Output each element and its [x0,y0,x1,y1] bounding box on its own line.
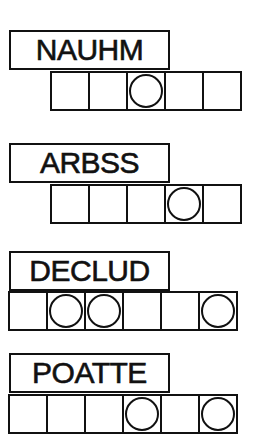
letter-input[interactable] [128,73,164,109]
scrambled-word-box: POATTE [9,353,170,393]
answer-letter-box[interactable] [50,71,90,111]
answer-letter-box[interactable] [160,394,200,434]
letter-input[interactable] [162,396,198,432]
scrambled-word: DECLUD [29,256,149,286]
letter-input[interactable] [128,186,164,222]
letter-input[interactable] [90,186,126,222]
answer-grid [50,184,240,224]
letter-input[interactable] [48,293,84,329]
answer-letter-box[interactable] [126,71,166,111]
letter-input[interactable] [200,293,236,329]
answer-letter-box[interactable] [202,71,242,111]
letter-input[interactable] [124,396,160,432]
answer-letter-box[interactable] [164,71,204,111]
letter-input[interactable] [86,396,122,432]
answer-letter-box[interactable] [50,184,90,224]
answer-letter-box[interactable] [198,394,238,434]
letter-input[interactable] [166,73,202,109]
letter-input[interactable] [10,293,46,329]
answer-letter-box[interactable] [198,291,238,331]
answer-letter-box[interactable] [8,394,48,434]
answer-letter-box[interactable] [88,184,128,224]
answer-letter-box[interactable] [126,184,166,224]
answer-letter-box[interactable] [46,291,86,331]
letter-input[interactable] [200,396,236,432]
scrambled-word: ARBSS [40,148,139,178]
letter-input[interactable] [86,293,122,329]
answer-letter-box[interactable] [122,291,162,331]
answer-letter-box[interactable] [202,184,242,224]
letter-input[interactable] [204,73,240,109]
letter-input[interactable] [48,396,84,432]
answer-letter-box[interactable] [46,394,86,434]
scrambled-word: NAUHM [36,35,144,65]
letter-input[interactable] [90,73,126,109]
answer-letter-box[interactable] [160,291,200,331]
letter-input[interactable] [52,186,88,222]
letter-input[interactable] [204,186,240,222]
answer-letter-box[interactable] [84,291,124,331]
letter-input[interactable] [162,293,198,329]
letter-input[interactable] [52,73,88,109]
letter-input[interactable] [10,396,46,432]
answer-letter-box[interactable] [88,71,128,111]
answer-letter-box[interactable] [84,394,124,434]
answer-letter-box[interactable] [164,184,204,224]
answer-grid [50,71,240,111]
letter-input[interactable] [124,293,160,329]
answer-grid [8,291,236,331]
scrambled-word-box: NAUHM [9,30,170,70]
scrambled-word: POATTE [32,358,147,388]
scrambled-word-box: DECLUD [9,251,170,291]
scrambled-word-box: ARBSS [9,143,170,183]
answer-letter-box[interactable] [122,394,162,434]
letter-input[interactable] [166,186,202,222]
answer-grid [8,394,236,434]
answer-letter-box[interactable] [8,291,48,331]
